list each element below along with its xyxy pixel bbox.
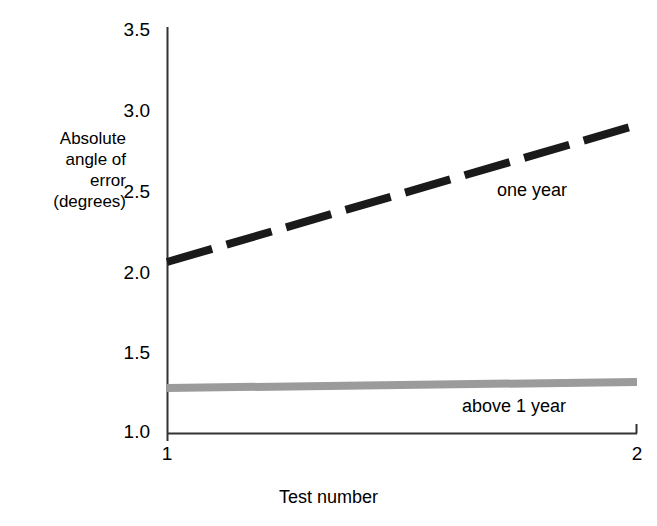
series-line-above-one-year: [167, 382, 637, 388]
series-label-above-one-year: above 1 year: [462, 396, 566, 416]
plot-area: [0, 0, 657, 526]
series-label-one-year: one year: [497, 180, 567, 200]
chart-figure: Absolute angle of error (degrees) 3.5 3.…: [0, 0, 657, 526]
x-axis-title: Test number: [0, 487, 657, 507]
